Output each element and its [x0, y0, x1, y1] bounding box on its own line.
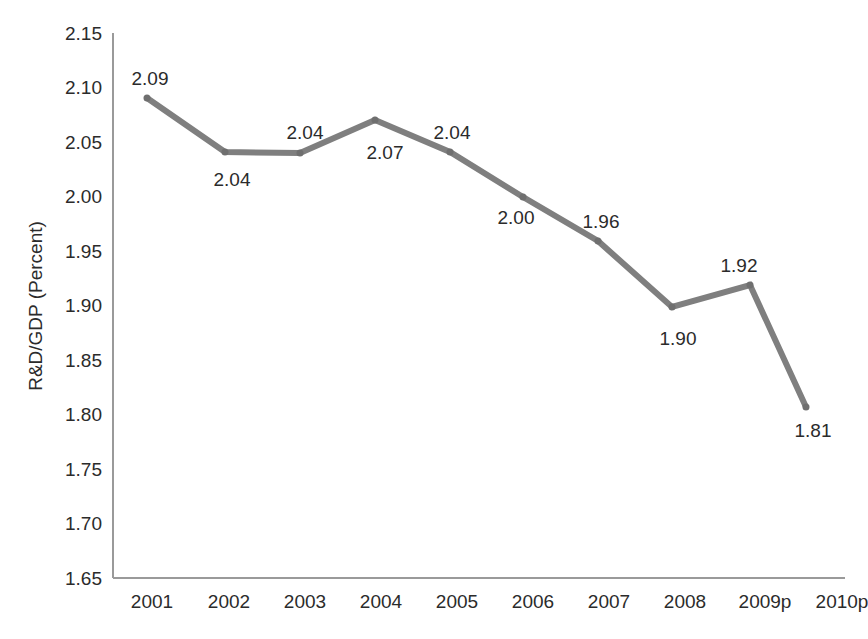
- x-tick-label-2006: 2006: [512, 591, 554, 612]
- y-tick-label-1-95: 1.95: [65, 241, 102, 262]
- data-point-2009p: [747, 282, 754, 289]
- data-label-2003: 2.04: [287, 122, 324, 143]
- x-tick-label-2010p: 2010p: [816, 591, 868, 612]
- data-point-2008: [669, 304, 676, 311]
- y-tick-label-1-65: 1.65: [65, 568, 102, 589]
- x-tick-label-2008: 2008: [664, 591, 706, 612]
- data-label-2001: 2.09: [132, 68, 169, 89]
- x-tick-label-2001: 2001: [131, 591, 173, 612]
- x-tick-label-2003: 2003: [284, 591, 326, 612]
- data-point-2004: [372, 117, 379, 124]
- data-label-2008: 1.90: [660, 328, 697, 349]
- y-tick-label-2-05: 2.05: [65, 132, 102, 153]
- y-tick-label-1-85: 1.85: [65, 350, 102, 371]
- data-point-2006: [520, 194, 527, 201]
- y-tick-label-1-70: 1.70: [65, 513, 102, 534]
- data-label-2004: 2.07: [367, 142, 404, 163]
- series-line-rd-gdp: [147, 98, 806, 407]
- line-chart: R&D/GDP (Percent) 2.15 2.10 2.05 2.00 1.…: [0, 0, 868, 639]
- data-point-2007: [595, 238, 602, 245]
- x-tick-label-2007: 2007: [588, 591, 630, 612]
- chart-figure: R&D/GDP (Percent) 2.15 2.10 2.05 2.00 1.…: [0, 0, 868, 639]
- y-tick-label-2-00: 2.00: [65, 186, 102, 207]
- x-tick-label-2005: 2005: [436, 591, 478, 612]
- data-label-2010p: 1.81: [795, 420, 832, 441]
- data-label-2002: 2.04: [214, 169, 251, 190]
- x-tick-label-2009p: 2009p: [739, 591, 792, 612]
- data-label-2007: 1.96: [583, 211, 620, 232]
- data-label-2005: 2.04: [434, 122, 471, 143]
- data-point-2003: [297, 150, 304, 157]
- data-label-2006: 2.00: [498, 207, 535, 228]
- data-point-2005: [447, 149, 454, 156]
- y-tick-label-2-15: 2.15: [65, 23, 102, 44]
- x-tick-label-2002: 2002: [208, 591, 250, 612]
- data-point-2001: [144, 95, 151, 102]
- data-point-2010p: [803, 404, 810, 411]
- x-tick-label-2004: 2004: [360, 591, 403, 612]
- data-point-2002: [222, 149, 229, 156]
- y-tick-label-1-80: 1.80: [65, 404, 102, 425]
- y-tick-label-2-10: 2.10: [65, 77, 102, 98]
- data-label-2009p: 1.92: [721, 255, 758, 276]
- y-axis-title: R&D/GDP (Percent): [25, 221, 46, 391]
- y-tick-label-1-90: 1.90: [65, 295, 102, 316]
- y-tick-label-1-75: 1.75: [65, 459, 102, 480]
